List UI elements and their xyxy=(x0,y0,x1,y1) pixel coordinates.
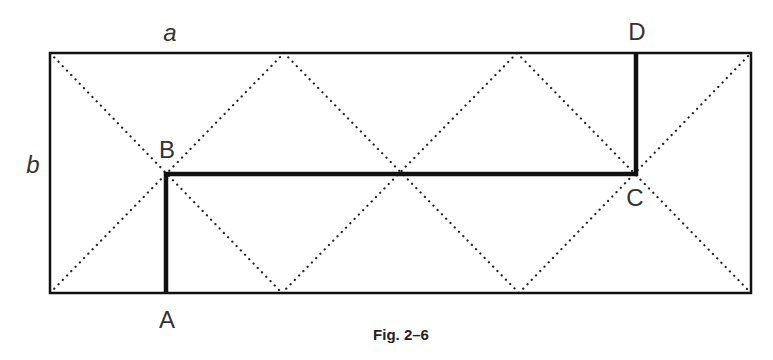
width-label-a: a xyxy=(163,21,176,45)
point-label-b: B xyxy=(159,138,175,162)
point-label-a: A xyxy=(159,308,175,332)
point-label-d: D xyxy=(628,20,645,44)
path-abcd xyxy=(166,53,636,293)
figure-caption: Fig. 2–6 xyxy=(373,326,429,343)
height-label-b: b xyxy=(26,153,39,177)
diagram-canvas xyxy=(0,0,773,360)
point-label-c: C xyxy=(626,186,643,210)
